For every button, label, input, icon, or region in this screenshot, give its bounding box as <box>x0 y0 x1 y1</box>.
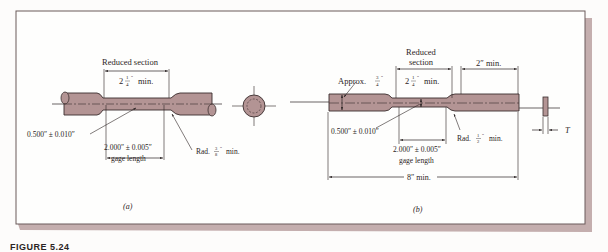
svg-text:Approx.: Approx. <box>338 76 366 86</box>
svg-text:Rad.: Rad. <box>457 134 471 143</box>
a-reduced-section-label: Reduced section <box>102 57 159 67</box>
inch-mark: ″ <box>381 75 383 80</box>
tensile-specimen-diagram: Reduced section 2 1 4 ″ min. 0.500″ ± 0.… <box>0 0 608 252</box>
b-grip-length-label: 2″ min. <box>476 58 501 68</box>
b-width-label: 0.500″ ± 0.010″ <box>331 127 379 136</box>
a-gage-length-value: 2.000″ ± 0.005″ <box>104 143 152 152</box>
inch-mark: ″ <box>131 75 133 80</box>
a-diameter-label: 0.500″ ± 0.010″ <box>27 130 75 139</box>
svg-text:Rad.: Rad. <box>196 147 210 156</box>
svg-text:2: 2 <box>119 76 123 86</box>
svg-text:2: 2 <box>405 76 409 86</box>
b-gage-length-value: 2.000″ ± 0.005″ <box>393 145 441 154</box>
b-reduced-section-line1: Reduced <box>406 47 436 57</box>
b-gage-length-label: gage length <box>399 156 434 165</box>
svg-text:min.: min. <box>138 76 153 86</box>
b-width-approx-label: Approx. 3 4 ″ <box>338 75 383 87</box>
figure-caption: FIGURE 5.24 <box>10 242 70 252</box>
inch-mark: ″ <box>482 133 484 138</box>
a-sublabel: (a) <box>123 202 133 211</box>
b-overall-length-label: 8″ min. <box>407 173 431 182</box>
svg-text:2: 2 <box>477 139 479 144</box>
svg-text:min.: min. <box>424 76 439 86</box>
svg-text:1: 1 <box>477 133 479 138</box>
figure-panel <box>16 11 585 224</box>
inch-mark: ″ <box>417 75 419 80</box>
b-sublabel: (b) <box>413 205 423 214</box>
svg-text:min.: min. <box>226 147 240 156</box>
svg-text:min.: min. <box>489 134 503 143</box>
b-reduced-section-line2: section <box>409 57 434 67</box>
inch-mark: ″ <box>220 146 222 151</box>
a-gage-length-label: gage length <box>111 154 146 163</box>
